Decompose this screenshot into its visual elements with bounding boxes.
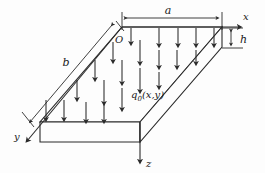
label-dim-b: b <box>62 56 69 69</box>
plate-load-diagram: a b h x y z O q0(x,y) <box>0 0 265 173</box>
label-axis-z: z <box>145 158 152 169</box>
load-args: (x,y) <box>142 89 164 100</box>
diagram-canvas: a b h x y z O q0(x,y) <box>0 0 265 173</box>
label-dim-h: h <box>240 33 247 46</box>
plate-front-face <box>40 122 140 142</box>
label-axis-x: x <box>243 11 249 22</box>
label-origin: O <box>115 34 123 45</box>
label-axis-y: y <box>13 131 20 142</box>
label-dim-a: a <box>165 4 172 17</box>
plate-solid <box>40 27 222 142</box>
